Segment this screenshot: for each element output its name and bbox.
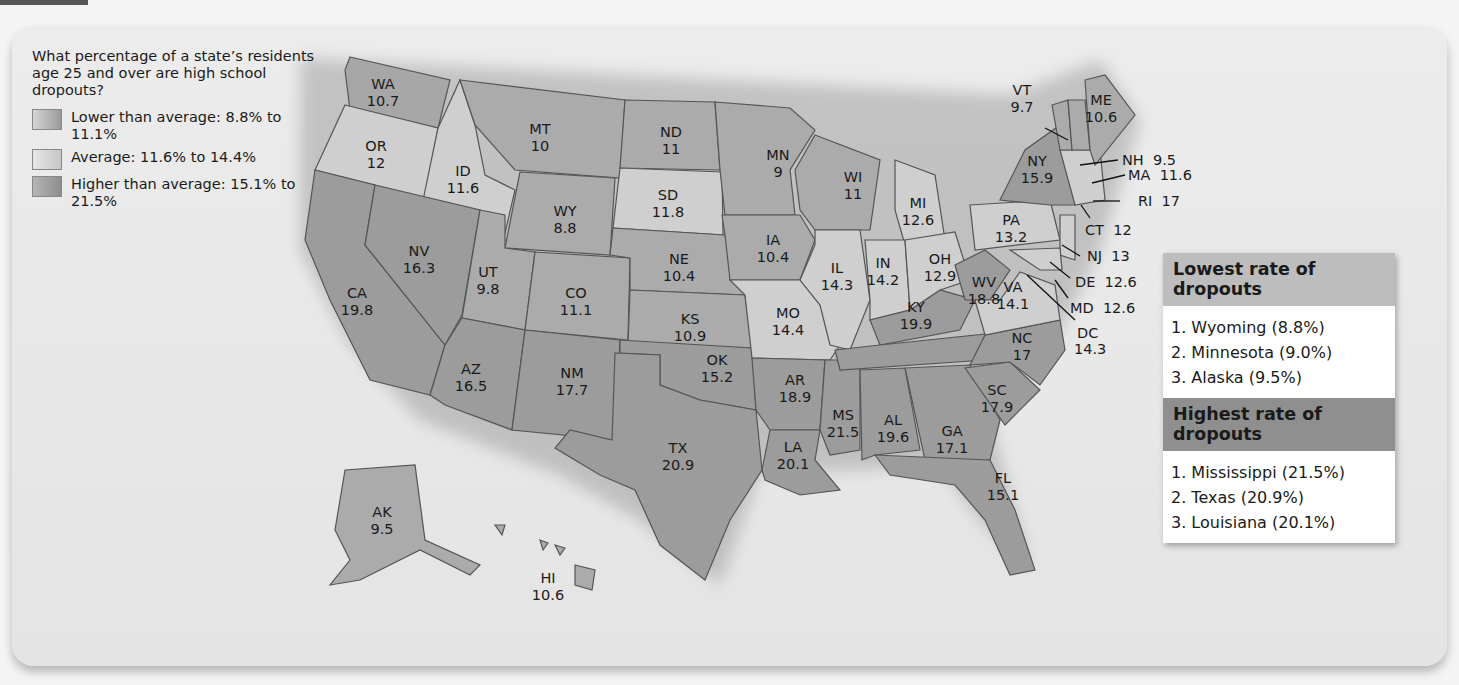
legend-item-average: Average: 11.6% to 14.4% [32,149,322,170]
callout-label: MD 12.6 [1070,300,1135,316]
highest-rate-list: 1. Mississippi (21.5%) 2. Texas (20.9%) … [1163,451,1395,543]
callout-label: DC [1077,325,1098,341]
callout-label: MA 11.6 [1128,167,1192,183]
highest-rate-heading: Highest rate of dropouts [1163,398,1395,451]
state-label-wa: WA10.7 [367,76,399,109]
state-label-mt: MT10 [529,121,551,154]
legend-item-higher: Higher than average: 15.1% to 21.5% [32,176,322,210]
legend-label-average: Average: 11.6% to 14.4% [71,149,256,166]
highest-item: 3. Louisiana (20.1%) [1171,510,1387,535]
callout-label: RI 17 [1138,193,1180,209]
ranking-box: Lowest rate of dropouts 1. Wyoming (8.8%… [1163,253,1395,543]
callout-label: 14.3 [1074,341,1106,357]
lowest-item: 1. Wyoming (8.8%) [1171,315,1387,340]
callout-label: DE 12.6 [1075,274,1137,290]
legend-question: What percentage of a state’s residents a… [32,48,322,99]
highest-item: 2. Texas (20.9%) [1171,485,1387,510]
lowest-rate-list: 1. Wyoming (8.8%) 2. Minnesota (9.0%) 3.… [1163,306,1395,398]
legend-item-lower: Lower than average: 8.8% to 11.1% [32,109,322,143]
state-ak [330,465,480,585]
state-label-vt: VT9.7 [1010,82,1033,115]
legend-label-lower: Lower than average: 8.8% to 11.1% [71,109,322,143]
callout-label: CT 12 [1085,222,1132,238]
state-label-wy: WY8.8 [553,203,576,236]
state-label-hi: HI10.6 [532,570,564,603]
state-label-nd: ND11 [660,124,682,157]
legend-label-higher: Higher than average: 15.1% to 21.5% [71,176,322,210]
swatch-average-icon [32,149,62,170]
swatch-higher-icon [32,176,62,197]
highest-item: 1. Mississippi (21.5%) [1171,460,1387,485]
state-label-ak: AK9.5 [370,504,393,537]
state-label-ut: UT9.8 [476,264,499,297]
callout-label: NH 9.5 [1122,152,1176,168]
swatch-lower-icon [32,109,62,130]
state-label-wi: WI11 [844,169,863,202]
lowest-item: 2. Minnesota (9.0%) [1171,340,1387,365]
state-label-or: OR12 [365,138,387,171]
state-label-mo: MO14.4 [772,305,804,338]
legend: What percentage of a state’s residents a… [32,48,322,216]
state-label-wv: WV18.8 [968,274,1000,307]
lowest-rate-heading: Lowest rate of dropouts [1163,253,1395,306]
state-label-nc: NC17 [1012,330,1033,363]
callout-label: NJ 13 [1087,248,1130,264]
state-label-nm: NM17.7 [556,365,588,398]
state-nj [1060,215,1075,260]
lowest-item: 3. Alaska (9.5%) [1171,365,1387,390]
